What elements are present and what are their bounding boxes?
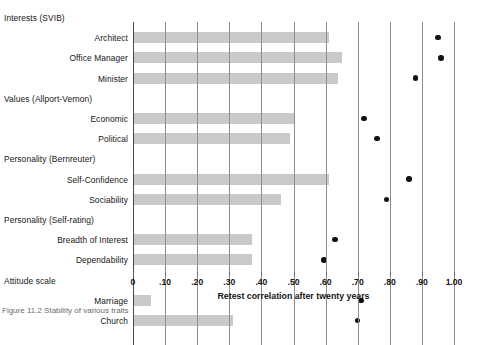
axis-tick-label: .20 xyxy=(191,277,203,287)
data-point-dot xyxy=(435,35,441,41)
row-label: Self-Confidence xyxy=(67,175,128,185)
row-label: Office Manager xyxy=(69,53,128,63)
data-point-dot xyxy=(413,75,419,81)
row-label-column: Interests (SVIB)ArchitectOffice ManagerM… xyxy=(0,0,131,272)
row-label: Sociability xyxy=(89,195,128,205)
axis-tick-label: .70 xyxy=(352,277,364,287)
axis-tick-label: .40 xyxy=(255,277,267,287)
bar xyxy=(133,113,294,124)
bar xyxy=(133,315,233,326)
bar xyxy=(133,133,290,144)
group-heading: Attitude scale xyxy=(4,276,56,286)
axis-tick-label: .10 xyxy=(159,277,171,287)
group-heading: Values (Allport-Vernon) xyxy=(4,94,92,104)
axis-tick xyxy=(165,272,166,276)
axis-tick xyxy=(229,272,230,276)
row-label: Marriage xyxy=(94,296,128,306)
bar xyxy=(133,254,252,265)
bar xyxy=(133,174,329,185)
axis-tick xyxy=(454,272,455,276)
row-label: Dependability xyxy=(76,255,128,265)
row-label: Economic xyxy=(90,114,128,124)
axis-tick-label: .80 xyxy=(384,277,396,287)
data-point-dot xyxy=(406,176,412,182)
data-point-dot xyxy=(332,237,338,243)
bar xyxy=(133,234,252,245)
axis-tick xyxy=(422,272,423,276)
bar xyxy=(133,73,338,84)
axis-tick-label: .50 xyxy=(288,277,300,287)
axis-tick xyxy=(390,272,391,276)
x-axis-title: Retest correlation after twenty years xyxy=(133,291,454,301)
axis-tick-label: 0 xyxy=(131,277,136,287)
row-label: Breadth of Interest xyxy=(57,235,128,245)
axis-tick xyxy=(326,272,327,276)
axis-tick-label: 1.00 xyxy=(446,277,463,287)
row-label: Church xyxy=(100,316,128,326)
bar xyxy=(133,32,329,43)
row-label: Architect xyxy=(95,33,128,43)
group-heading: Personality (Bernreuter) xyxy=(4,154,95,164)
axis-tick-label: .30 xyxy=(223,277,235,287)
data-point-dot xyxy=(374,136,380,142)
bar xyxy=(133,194,281,205)
axis-tick xyxy=(358,272,359,276)
axis-tick xyxy=(133,272,134,276)
data-point-dot xyxy=(384,197,390,203)
x-axis: 0.10.20.30.40.50.60.70.80.901.00 xyxy=(133,272,454,292)
axis-tick xyxy=(261,272,262,276)
group-heading: Personality (Self-rating) xyxy=(4,215,94,225)
gridline xyxy=(454,22,455,345)
data-point-dot xyxy=(438,55,444,61)
axis-tick-label: .60 xyxy=(320,277,332,287)
data-point-dot xyxy=(361,116,367,122)
group-heading: Interests (SVIB) xyxy=(4,13,65,23)
figure-caption: Figure 11.2 Stability of various traits xyxy=(2,306,362,316)
row-label: Political xyxy=(98,134,128,144)
row-label: Minister xyxy=(98,74,128,84)
axis-tick xyxy=(197,272,198,276)
axis-tick-label: .90 xyxy=(416,277,428,287)
axis-tick xyxy=(294,272,295,276)
